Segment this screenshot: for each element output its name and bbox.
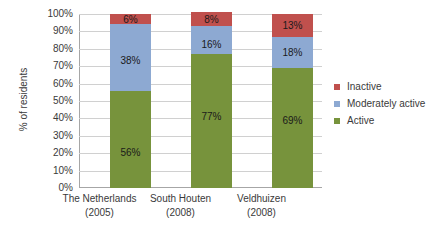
y-axis-title: % of residents bbox=[18, 30, 29, 170]
y-tick-label: 60% bbox=[37, 79, 73, 89]
y-tick-label: 70% bbox=[37, 61, 73, 71]
bar-group[interactable]: 56% 38% 6% bbox=[110, 14, 151, 188]
bar-segment-label-moderately-active: 38% bbox=[110, 55, 151, 66]
bar-segment-label-inactive: 8% bbox=[191, 14, 232, 25]
y-tick-label: 90% bbox=[37, 26, 73, 36]
y-tick-label: 20% bbox=[37, 148, 73, 158]
y-tick-label: 40% bbox=[37, 113, 73, 123]
bar-segment-active[interactable] bbox=[272, 68, 313, 188]
y-tick-label: 10% bbox=[37, 166, 73, 176]
bar-group[interactable]: 77% 16% 8% bbox=[191, 14, 232, 188]
bar-segment-active[interactable] bbox=[110, 91, 151, 188]
legend-swatch-icon bbox=[334, 101, 340, 107]
y-tick-label: 80% bbox=[37, 44, 73, 54]
x-category-label-year: (2008) bbox=[202, 206, 322, 220]
bar-segment-label-active: 56% bbox=[110, 147, 151, 158]
y-tick-label: 50% bbox=[37, 96, 73, 106]
bar-segment-label-inactive: 6% bbox=[110, 14, 151, 25]
bar-segment-label-active: 69% bbox=[272, 115, 313, 126]
bar-segment-label-inactive: 13% bbox=[272, 20, 313, 31]
bar-segment-label-moderately-active: 16% bbox=[191, 39, 232, 50]
bar-group[interactable]: 69% 18% 13% bbox=[272, 14, 313, 188]
legend-swatch-icon bbox=[334, 118, 340, 124]
plot-area: 56% 38% 6% 77% 16% 8% 69% 18 bbox=[79, 14, 322, 188]
x-category-label-name: Veldhuizen bbox=[237, 193, 286, 204]
stacked-bar-chart: % of residents 100% 90% 80% 70% 60% 50% … bbox=[0, 0, 447, 234]
bar-segment-label-moderately-active: 18% bbox=[272, 47, 313, 58]
legend-item-active[interactable]: Active bbox=[334, 112, 425, 129]
bar-segment-label-active: 77% bbox=[191, 111, 232, 122]
legend-swatch-icon bbox=[334, 84, 340, 90]
y-tick-label: 30% bbox=[37, 131, 73, 141]
legend-item-inactive[interactable]: Inactive bbox=[334, 78, 425, 95]
legend: Inactive Moderately active Active bbox=[334, 78, 425, 129]
legend-label: Inactive bbox=[347, 81, 381, 92]
y-tick-label: 100% bbox=[37, 9, 73, 19]
x-category-label: Veldhuizen (2008) bbox=[202, 192, 322, 220]
legend-item-moderately-active[interactable]: Moderately active bbox=[334, 95, 425, 112]
legend-label: Active bbox=[347, 115, 374, 126]
legend-label: Moderately active bbox=[347, 98, 425, 109]
